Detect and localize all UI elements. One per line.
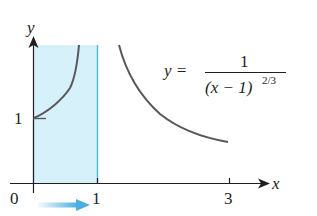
equation-denominator-base: (x − 1) <box>205 78 253 97</box>
x-axis-label: x <box>271 174 280 193</box>
direction-arrow-head-icon <box>76 199 90 211</box>
improper-integral-diagram: y x 0 1 3 1 y = 1 (x − 1) 2/3 <box>0 0 317 216</box>
equation-denominator-exponent: 2/3 <box>262 74 277 86</box>
x-tick-label-3: 3 <box>224 189 233 208</box>
origin-label: 0 <box>10 189 19 208</box>
y-tick-label-1: 1 <box>14 109 23 128</box>
x-tick-label-1: 1 <box>92 189 101 208</box>
function-equation: y = 1 (x − 1) 2/3 <box>162 52 286 97</box>
equation-lhs: y = <box>162 61 187 80</box>
y-axis-label: y <box>25 18 35 37</box>
direction-arrow-shaft <box>38 203 78 208</box>
equation-numerator: 1 <box>240 52 249 71</box>
